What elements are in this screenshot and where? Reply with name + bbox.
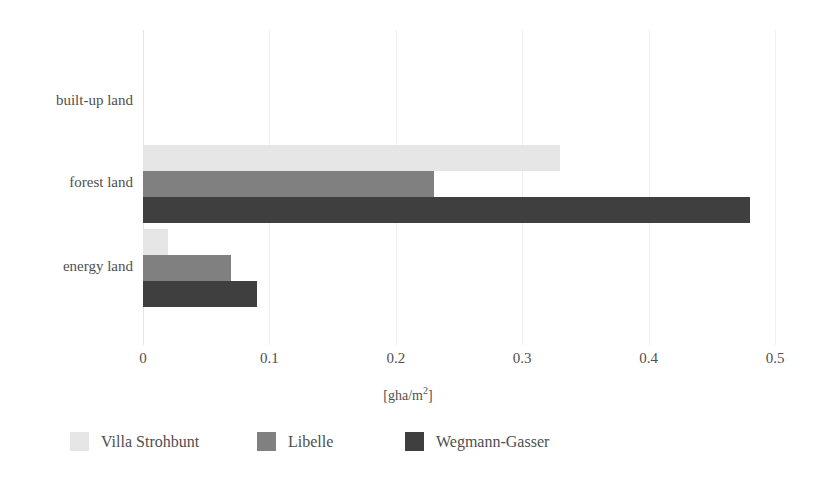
x-axis-tick-label: 0 bbox=[139, 350, 147, 367]
bar-group bbox=[143, 63, 775, 141]
legend: Villa StrohbuntLibelleWegmann-Gasser bbox=[0, 432, 816, 462]
bar[interactable] bbox=[143, 229, 168, 255]
legend-label: Libelle bbox=[288, 433, 333, 451]
bar[interactable] bbox=[143, 255, 231, 281]
y-axis-category-label: forest land bbox=[3, 174, 133, 191]
x-axis-title-base: [gha/m bbox=[383, 388, 423, 403]
gridline bbox=[775, 30, 776, 345]
plot-area bbox=[143, 30, 775, 345]
legend-item[interactable]: Villa Strohbunt bbox=[70, 432, 199, 451]
x-axis-tick-label: 0.4 bbox=[639, 350, 658, 367]
x-axis-title-tail: ] bbox=[428, 388, 433, 403]
y-axis-category-label: built-up land bbox=[3, 92, 133, 109]
bar[interactable] bbox=[143, 281, 257, 307]
legend-swatch bbox=[257, 432, 276, 451]
bar[interactable] bbox=[143, 171, 434, 197]
legend-swatch bbox=[70, 432, 89, 451]
bar-group bbox=[143, 145, 775, 223]
x-axis-tick-label: 0.2 bbox=[386, 350, 405, 367]
legend-label: Wegmann-Gasser bbox=[436, 433, 549, 451]
x-axis-tick-label: 0.3 bbox=[513, 350, 532, 367]
x-axis-tick-label: 0.1 bbox=[260, 350, 279, 367]
legend-label: Villa Strohbunt bbox=[101, 433, 199, 451]
bar[interactable] bbox=[143, 197, 750, 223]
y-axis-category-labels: built-up landforest landenergy land bbox=[0, 30, 133, 345]
bar-chart: built-up landforest landenergy land 00.1… bbox=[0, 0, 816, 495]
legend-swatch bbox=[405, 432, 424, 451]
y-axis-category-label: energy land bbox=[3, 258, 133, 275]
bar[interactable] bbox=[143, 145, 560, 171]
x-axis-tick-label: 0.5 bbox=[766, 350, 785, 367]
legend-item[interactable]: Libelle bbox=[257, 432, 333, 451]
bar-group bbox=[143, 229, 775, 307]
x-axis-title: [gha/m2] bbox=[0, 385, 816, 404]
legend-item[interactable]: Wegmann-Gasser bbox=[405, 432, 549, 451]
